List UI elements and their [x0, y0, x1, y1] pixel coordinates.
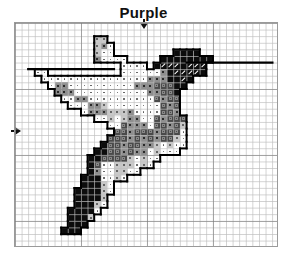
stitch-grid: [14, 22, 278, 247]
backstitch-outline: [15, 23, 278, 247]
